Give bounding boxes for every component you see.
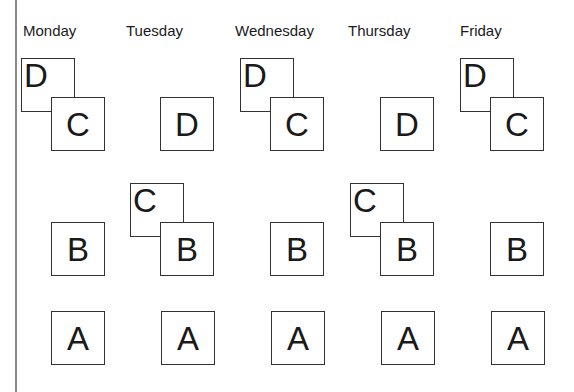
- friday-row1-front-box: C: [490, 97, 544, 151]
- tuesday-row3-front-box: A: [161, 311, 215, 365]
- box-letter: A: [492, 322, 544, 355]
- box-letter: A: [162, 322, 214, 355]
- monday-row1-front-box: C: [51, 97, 105, 151]
- box-letter: C: [353, 184, 377, 217]
- tuesday-row2-front-box: B: [160, 222, 214, 276]
- box-letter: A: [272, 322, 324, 355]
- day-label-monday: Monday: [23, 22, 76, 39]
- box-letter: C: [133, 184, 157, 217]
- box-letter: D: [243, 59, 267, 92]
- day-label-friday: Friday: [460, 22, 502, 39]
- box-letter: C: [491, 108, 543, 141]
- box-letter: B: [491, 233, 543, 266]
- friday-row2-front-box: B: [490, 222, 544, 276]
- box-letter: B: [271, 233, 323, 266]
- box-letter: B: [381, 233, 433, 266]
- box-letter: C: [271, 108, 323, 141]
- monday-row2-front-box: B: [51, 222, 105, 276]
- day-label-tuesday: Tuesday: [126, 22, 183, 39]
- box-letter: D: [24, 59, 48, 92]
- thursday-row1-front-box: D: [380, 97, 434, 151]
- box-letter: D: [161, 108, 213, 141]
- box-letter: D: [381, 108, 433, 141]
- day-label-thursday: Thursday: [348, 22, 411, 39]
- box-letter: A: [382, 322, 434, 355]
- box-letter: A: [52, 322, 104, 355]
- left-margin-line: [15, 0, 17, 392]
- wednesday-row1-front-box: C: [270, 97, 324, 151]
- box-letter: D: [463, 59, 487, 92]
- tuesday-row1-front-box: D: [160, 97, 214, 151]
- wednesday-row2-front-box: B: [270, 222, 324, 276]
- box-letter: B: [52, 233, 104, 266]
- wednesday-row3-front-box: A: [271, 311, 325, 365]
- monday-row3-front-box: A: [51, 311, 105, 365]
- box-letter: C: [52, 108, 104, 141]
- thursday-row2-front-box: B: [380, 222, 434, 276]
- thursday-row3-front-box: A: [381, 311, 435, 365]
- box-letter: B: [161, 233, 213, 266]
- day-label-wednesday: Wednesday: [235, 22, 314, 39]
- friday-row3-front-box: A: [491, 311, 545, 365]
